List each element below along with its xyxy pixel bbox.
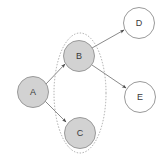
node-e[interactable]: E [125, 82, 156, 113]
node-layer: A B C D E [18, 8, 156, 149]
edge-b-e[interactable] [92, 65, 126, 88]
node-d-label: D [136, 18, 143, 28]
node-a[interactable]: A [18, 77, 49, 108]
edge-a-c[interactable] [45, 101, 66, 122]
node-b-label: B [76, 51, 82, 61]
edge-b-d[interactable] [92, 30, 124, 48]
node-c[interactable]: C [65, 118, 96, 149]
node-b[interactable]: B [64, 41, 95, 72]
node-d[interactable]: D [124, 8, 155, 39]
graph-diagram: A B C D E [0, 0, 167, 161]
node-a-label: A [30, 87, 36, 97]
node-e-label: E [137, 92, 143, 102]
node-c-label: C [77, 128, 84, 138]
